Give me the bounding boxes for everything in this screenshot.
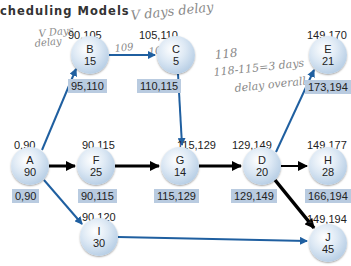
node-d-late-times: 129,149 — [231, 189, 277, 203]
node-g-id: G — [176, 154, 185, 166]
node-h-id: H — [324, 154, 332, 166]
node-c-late-times: 110,115 — [137, 79, 181, 93]
node-d[interactable]: D 20 — [243, 147, 281, 185]
node-b[interactable]: B 15 — [71, 36, 109, 74]
node-e-id: E — [324, 43, 331, 55]
node-a-id: A — [26, 154, 33, 166]
node-a-late-times: 0,90 — [12, 189, 39, 203]
node-b-id: B — [86, 43, 93, 55]
node-g-duration: 14 — [174, 166, 186, 178]
node-b-duration: 15 — [84, 55, 96, 67]
node-h-late-times: 166,194 — [305, 189, 351, 203]
edge-i-j — [118, 237, 307, 241]
node-i-duration: 30 — [93, 237, 105, 249]
node-i[interactable]: I 30 — [80, 218, 118, 256]
node-j-duration: 45 — [322, 243, 334, 255]
node-c[interactable]: C 5 — [157, 36, 195, 74]
edge-a-i — [44, 180, 82, 224]
node-d-id: D — [258, 154, 266, 166]
node-i-id: I — [97, 225, 100, 237]
node-f-late-times: 90,115 — [78, 189, 117, 203]
node-f[interactable]: F 25 — [77, 147, 115, 185]
node-f-id: F — [93, 154, 100, 166]
node-h-duration: 28 — [322, 166, 334, 178]
node-h[interactable]: H 28 — [309, 147, 347, 185]
node-f-duration: 25 — [90, 166, 102, 178]
node-c-duration: 5 — [173, 55, 179, 67]
node-d-duration: 20 — [256, 166, 268, 178]
node-e[interactable]: E 21 — [309, 36, 347, 74]
node-g[interactable]: G 14 — [161, 147, 199, 185]
node-a[interactable]: A 90 — [11, 147, 49, 185]
node-g-late-times: 115,129 — [154, 189, 199, 203]
node-e-late-times: 173,194 — [305, 80, 351, 94]
node-j-id: J — [325, 231, 331, 243]
node-c-id: C — [172, 43, 180, 55]
node-a-duration: 90 — [24, 166, 36, 178]
node-j[interactable]: J 45 — [309, 224, 347, 262]
node-b-late-times: 95,110 — [68, 79, 107, 93]
node-e-duration: 21 — [322, 55, 334, 67]
